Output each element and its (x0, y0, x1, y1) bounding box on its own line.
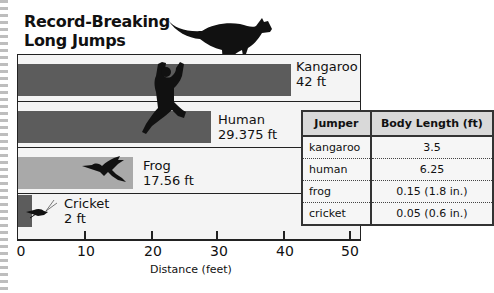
x-tick-label-20: 20 (144, 243, 162, 259)
x-tick-label-40: 40 (276, 243, 294, 259)
x-tick-label-10: 10 (77, 243, 95, 259)
x-tick-label-30: 30 (210, 243, 228, 259)
x-tick-10 (84, 231, 86, 240)
notebook-spiral-edge (0, 0, 8, 293)
table-header-jumper: Jumper (302, 111, 371, 136)
table-cell-length: 0.15 (1.8 in.) (371, 181, 493, 203)
title-line-2: Long Jumps (24, 31, 170, 50)
bar-label-cricket: Cricket2 ft (64, 196, 109, 226)
table-cell-length: 0.05 (0.6 in.) (371, 203, 493, 226)
table-cell-length: 3.5 (371, 136, 493, 159)
x-axis-label: Distance (feet) (150, 263, 232, 276)
bar-label-human: Human29.375 ft (218, 112, 277, 142)
table-row: kangaroo 3.5 (302, 136, 493, 159)
x-tick-label-50: 50 (341, 243, 359, 259)
table-row: frog 0.15 (1.8 in.) (302, 181, 493, 203)
human-icon (140, 62, 196, 140)
x-tick-label-0: 0 (17, 243, 26, 259)
table-cell-jumper: kangaroo (302, 136, 371, 159)
x-tick-40 (283, 231, 285, 240)
table-cell-jumper: cricket (302, 203, 371, 226)
frog-icon (82, 154, 132, 184)
title-line-1: Record-Breaking (24, 12, 170, 31)
table-header-body-length: Body Length (ft) (371, 111, 493, 136)
bar-label-frog: Frog17.56 ft (143, 158, 194, 188)
table-row: cricket 0.05 (0.6 in.) (302, 203, 493, 226)
body-length-table: Jumper Body Length (ft) kangaroo 3.5 hum… (301, 110, 494, 226)
cricket-icon (24, 196, 58, 220)
x-tick-20 (151, 231, 153, 240)
x-axis-line (17, 239, 361, 241)
table-cell-jumper: human (302, 159, 371, 181)
bar-label-kangaroo: Kangaroo42 ft (296, 59, 358, 89)
chart-title: Record-Breaking Long Jumps (24, 12, 170, 50)
x-tick-30 (216, 231, 218, 240)
table-row: human 6.25 (302, 159, 493, 181)
table-header-row: Jumper Body Length (ft) (302, 111, 493, 136)
table-cell-jumper: frog (302, 181, 371, 203)
table-cell-length: 6.25 (371, 159, 493, 181)
x-tick-50 (349, 231, 351, 240)
